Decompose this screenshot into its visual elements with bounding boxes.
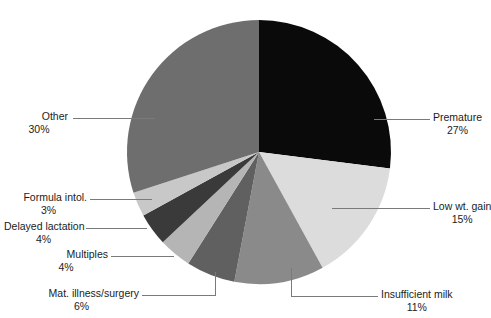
- callout-low-wt-gain-value: 15%: [433, 213, 491, 226]
- callout-multiples-name: Multiples: [24, 248, 108, 261]
- callout-delayed-lactation: Delayed lactation 4%: [4, 220, 83, 246]
- callout-insufficient-milk-value: 11%: [381, 301, 453, 314]
- callout-low-wt-gain-name: Low wt. gain: [433, 200, 491, 213]
- callout-other-value: 30%: [10, 123, 68, 136]
- callout-premature-name: Premature: [433, 111, 482, 124]
- callout-mat-illness: Mat. illness/surgery 6%: [24, 287, 139, 313]
- leader-line-mat-illness: [142, 272, 215, 295]
- callout-multiples: Multiples 4%: [24, 248, 108, 274]
- pie-slices-group: [127, 20, 391, 284]
- callout-insufficient-milk-name: Insufficient milk: [381, 288, 453, 301]
- callout-formula-intol-value: 3%: [10, 204, 87, 217]
- callout-mat-illness-value: 6%: [24, 300, 139, 313]
- callout-low-wt-gain: Low wt. gain 15%: [433, 200, 491, 226]
- callout-multiples-value: 4%: [24, 261, 108, 274]
- callout-other: Other 30%: [10, 110, 68, 136]
- callout-formula-intol: Formula intol. 3%: [10, 191, 87, 217]
- callout-other-name: Other: [10, 110, 68, 123]
- callout-delayed-lactation-name: Delayed lactation: [4, 220, 83, 233]
- callout-formula-intol-name: Formula intol.: [10, 191, 87, 204]
- callout-delayed-lactation-value: 4%: [4, 233, 83, 246]
- callout-premature-value: 27%: [433, 124, 482, 137]
- callout-mat-illness-name: Mat. illness/surgery: [24, 287, 139, 300]
- callout-insufficient-milk: Insufficient milk 11%: [381, 288, 453, 314]
- callout-premature: Premature 27%: [433, 111, 482, 137]
- pie-slice: [259, 20, 391, 169]
